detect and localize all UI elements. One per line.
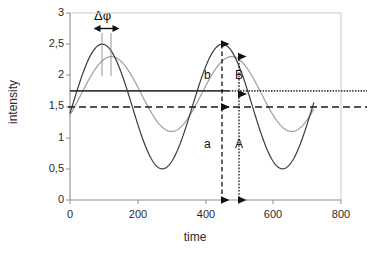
- annotation-phase-shift: [100, 29, 113, 77]
- x-axis: [70, 200, 341, 204]
- plot-area: [0, 0, 371, 261]
- series-phase-shifted-signal: [70, 57, 314, 132]
- chart-figure: intensity time 3 2,5 2 1,5 1 0,5 0 0 200…: [0, 0, 371, 261]
